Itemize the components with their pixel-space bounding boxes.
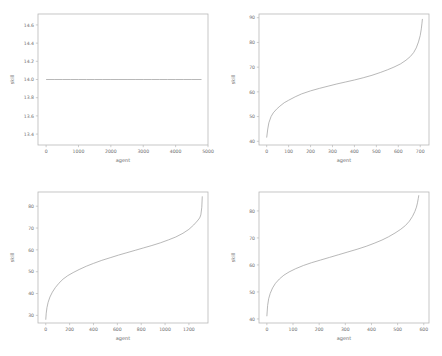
y-tick-label: 14.0 <box>24 77 34 82</box>
x-axis-label: agent <box>116 335 130 342</box>
subplot-top-right: 0100200300400500600700405060708090agents… <box>221 0 442 178</box>
data-line <box>267 19 423 138</box>
x-tick-label: 500 <box>372 149 381 154</box>
y-tick-label: 80 <box>249 209 255 214</box>
axes-bottom-right: 01002003004005006004050607080agentskill <box>221 178 442 356</box>
x-tick-label: 1000 <box>73 149 85 154</box>
axes-top-left: 01000200030004000500013.413.613.814.014.… <box>0 0 221 178</box>
x-tick-label: 400 <box>89 327 98 332</box>
y-tick-label: 80 <box>28 204 34 209</box>
x-tick-label: 700 <box>416 149 425 154</box>
x-tick-label: 100 <box>289 327 298 332</box>
y-tick-label: 14.4 <box>24 41 34 46</box>
x-tick-label: 1000 <box>159 327 171 332</box>
y-tick-label: 40 <box>249 139 255 144</box>
axes-top-right: 0100200300400500600700405060708090agents… <box>221 0 442 178</box>
x-tick-label: 5000 <box>202 149 214 154</box>
x-tick-label: 500 <box>393 327 402 332</box>
y-tick-label: 40 <box>28 291 34 296</box>
figure-canvas: 01000200030004000500013.413.613.814.014.… <box>0 0 442 356</box>
subplot-bottom-right: 01002003004005006004050607080agentskill <box>221 178 442 356</box>
x-tick-label: 200 <box>315 327 324 332</box>
x-tick-label: 400 <box>367 327 376 332</box>
x-tick-label: 1200 <box>183 327 195 332</box>
data-line <box>267 195 419 316</box>
x-tick-label: 0 <box>45 149 48 154</box>
subplot-top-left: 01000200030004000500013.413.613.814.014.… <box>0 0 221 178</box>
x-tick-label: 0 <box>44 327 47 332</box>
x-tick-label: 600 <box>394 149 403 154</box>
x-tick-label: 800 <box>137 327 146 332</box>
x-tick-label: 600 <box>419 327 428 332</box>
y-tick-label: 90 <box>249 15 255 20</box>
x-axis-label: agent <box>116 157 130 164</box>
y-tick-label: 40 <box>249 317 255 322</box>
y-tick-label: 70 <box>249 65 255 70</box>
y-tick-label: 50 <box>249 114 255 119</box>
x-tick-label: 300 <box>341 327 350 332</box>
x-tick-label: 600 <box>113 327 122 332</box>
y-tick-label: 13.8 <box>24 95 34 100</box>
y-axis-label: skill <box>9 75 15 85</box>
y-tick-label: 60 <box>249 263 255 268</box>
y-axis-label: skill <box>9 253 15 263</box>
y-tick-label: 50 <box>249 290 255 295</box>
x-tick-label: 4000 <box>170 149 182 154</box>
x-tick-label: 3000 <box>137 149 149 154</box>
x-axis-label: agent <box>337 335 351 342</box>
y-tick-label: 70 <box>249 236 255 241</box>
subplot-bottom-left: 020040060080010001200304050607080agentsk… <box>0 178 221 356</box>
x-tick-label: 2000 <box>105 149 117 154</box>
y-axis-label: skill <box>230 75 236 85</box>
axes-bottom-left: 020040060080010001200304050607080agentsk… <box>0 178 221 356</box>
y-tick-label: 13.6 <box>24 114 34 119</box>
y-tick-label: 70 <box>28 226 34 231</box>
y-tick-label: 14.6 <box>24 23 34 28</box>
y-tick-label: 30 <box>28 313 34 318</box>
x-tick-label: 200 <box>65 327 74 332</box>
y-tick-label: 60 <box>249 90 255 95</box>
x-tick-label: 300 <box>328 149 337 154</box>
y-axis-label: skill <box>230 253 236 263</box>
x-tick-label: 200 <box>306 149 315 154</box>
y-tick-label: 13.4 <box>24 132 34 137</box>
x-tick-label: 100 <box>284 149 293 154</box>
y-tick-label: 80 <box>249 40 255 45</box>
data-line <box>46 196 203 319</box>
x-axis-label: agent <box>337 157 351 164</box>
x-tick-label: 0 <box>265 149 268 154</box>
x-tick-label: 0 <box>265 327 268 332</box>
x-tick-label: 400 <box>350 149 359 154</box>
y-tick-label: 50 <box>28 269 34 274</box>
y-tick-label: 60 <box>28 248 34 253</box>
y-tick-label: 14.2 <box>24 59 34 64</box>
